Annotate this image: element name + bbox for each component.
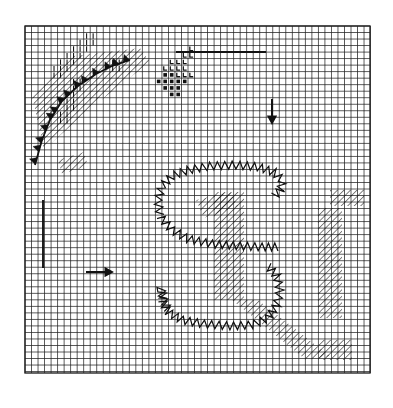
cell-symbol-square bbox=[157, 80, 161, 84]
cell-symbol-square bbox=[170, 80, 174, 84]
cell-symbol-square bbox=[176, 86, 180, 90]
hatch-band-right-top bbox=[330, 190, 364, 206]
cell-symbol-square bbox=[163, 73, 167, 77]
gridded-synoptic-chart bbox=[0, 0, 393, 408]
cell-symbol-square bbox=[183, 80, 187, 84]
cell-symbol-square bbox=[163, 80, 167, 84]
figure-container: Gridded Synoptic Analysis Chart bbox=[0, 0, 393, 408]
cell-symbol-square bbox=[170, 93, 174, 97]
cell-symbol-square bbox=[176, 80, 180, 84]
cell-symbol-square bbox=[176, 93, 180, 97]
hatch-band-bottom-right bbox=[318, 340, 352, 360]
cell-symbol-square bbox=[170, 73, 174, 77]
cell-symbol-square bbox=[170, 86, 174, 90]
cell-symbol-square bbox=[163, 86, 167, 90]
hatch-band-right bbox=[318, 208, 342, 318]
